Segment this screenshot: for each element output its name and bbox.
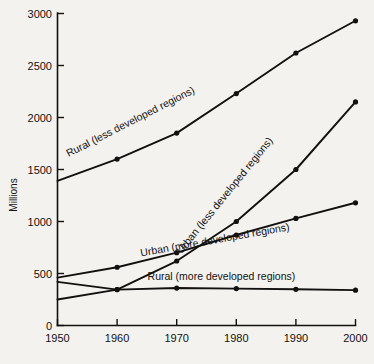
data-point — [234, 91, 239, 96]
data-point — [234, 219, 239, 224]
data-point — [353, 99, 358, 104]
data-point — [293, 287, 298, 292]
series-label-4: Rural (more developed regions) — [148, 270, 296, 282]
x-tick-label-2000: 2000 — [343, 332, 367, 344]
population-line-chart: Millions 0 500 1000 1500 2000 2500 30 — [0, 0, 374, 364]
data-point — [115, 287, 120, 292]
y-tick-label-1500: 1500 — [28, 164, 52, 176]
y-axis-title-text: Millions — [8, 178, 19, 211]
y-tick-label-1000: 1000 — [28, 216, 52, 228]
x-tick-label-1990: 1990 — [284, 332, 308, 344]
data-point — [174, 285, 179, 290]
data-point — [115, 157, 120, 162]
x-tick-label-1950: 1950 — [45, 332, 69, 344]
y-tick-label-3000: 3000 — [28, 8, 52, 20]
data-point — [353, 288, 358, 293]
data-point — [353, 18, 358, 23]
y-tick-label-2500: 2500 — [28, 60, 52, 72]
x-tick-label-1960: 1960 — [105, 332, 129, 344]
data-point — [293, 216, 298, 221]
data-point — [293, 50, 298, 55]
y-tick-label-0: 0 — [46, 320, 52, 332]
data-point — [174, 131, 179, 136]
data-point — [234, 286, 239, 291]
y-tick-label-2000: 2000 — [28, 112, 52, 124]
data-point — [293, 167, 298, 172]
chart-page: Millions 0 500 1000 1500 2000 2500 30 — [0, 0, 374, 364]
data-point — [174, 258, 179, 263]
data-point — [115, 265, 120, 270]
y-axis-title: Millions — [8, 178, 19, 211]
chart-background — [0, 0, 374, 364]
y-tick-label-500: 500 — [34, 268, 52, 280]
data-point — [353, 200, 358, 205]
x-tick-label-1970: 1970 — [164, 332, 188, 344]
x-tick-label-1980: 1980 — [224, 332, 248, 344]
